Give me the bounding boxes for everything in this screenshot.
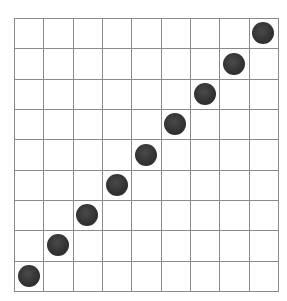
grid-line-horizontal xyxy=(14,200,279,201)
grid-line-horizontal xyxy=(14,109,279,110)
grid-line-vertical xyxy=(278,18,279,291)
grid-line-vertical xyxy=(131,18,132,291)
grid-line-vertical xyxy=(43,18,44,291)
piece-dot xyxy=(18,265,40,287)
grid-line-horizontal xyxy=(14,79,279,80)
grid-line-horizontal xyxy=(14,261,279,262)
grid-line-vertical xyxy=(14,18,15,291)
grid-line-vertical xyxy=(190,18,191,291)
piece-dot xyxy=(223,53,245,75)
grid-board xyxy=(14,18,278,291)
piece-dot xyxy=(76,204,98,226)
grid-line-vertical xyxy=(73,18,74,291)
piece-dot xyxy=(47,234,69,256)
piece-dot xyxy=(164,113,186,135)
grid-line-horizontal xyxy=(14,170,279,171)
grid-line-horizontal xyxy=(14,48,279,49)
grid-line-horizontal xyxy=(14,18,279,19)
piece-dot xyxy=(252,22,274,44)
grid-line-vertical xyxy=(102,18,103,291)
grid-line-horizontal xyxy=(14,139,279,140)
piece-dot xyxy=(106,174,128,196)
grid-line-horizontal xyxy=(14,230,279,231)
piece-dot xyxy=(194,83,216,105)
piece-dot xyxy=(135,144,157,166)
grid-line-vertical xyxy=(249,18,250,291)
grid-line-vertical xyxy=(219,18,220,291)
grid-line-vertical xyxy=(161,18,162,291)
grid-line-horizontal xyxy=(14,291,279,292)
